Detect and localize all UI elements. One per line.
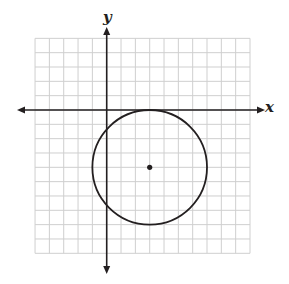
graph-canvas: [0, 0, 289, 284]
y-axis-arrow-down-icon: [103, 266, 110, 274]
coordinate-plane: y x: [0, 0, 289, 284]
grid-lines: [35, 38, 250, 253]
axes: [17, 27, 265, 274]
x-axis-arrow-left-icon: [17, 107, 25, 114]
x-axis-label: x: [265, 100, 274, 115]
y-axis-label: y: [103, 10, 112, 25]
y-axis-arrow-up-icon: [103, 27, 110, 35]
circle-center-point: [147, 165, 152, 170]
x-axis-arrow-right-icon: [257, 107, 265, 114]
